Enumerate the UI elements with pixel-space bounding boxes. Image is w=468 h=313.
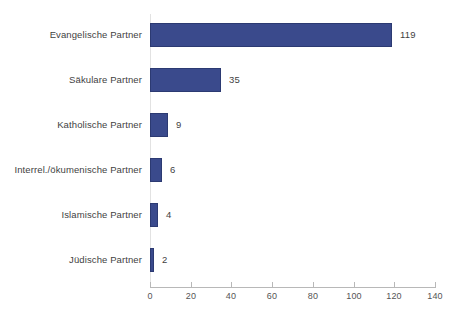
bar-chart: 0 20 40 60 80 100 120 140 Evangelische P… <box>0 0 468 313</box>
category-label: Jüdische Partner <box>69 254 142 265</box>
bar <box>150 68 221 92</box>
bar <box>150 158 162 182</box>
x-tick-label: 100 <box>339 291 369 301</box>
x-tick-mark <box>150 282 151 287</box>
bar-value-label: 35 <box>229 74 240 85</box>
category-label: Evangelische Partner <box>50 29 142 40</box>
x-tick-label: 120 <box>379 291 409 301</box>
bar-value-label: 2 <box>162 254 167 265</box>
bar-value-label: 6 <box>170 164 175 175</box>
x-tick-mark <box>394 282 395 287</box>
bar <box>150 203 158 227</box>
x-axis-line <box>150 287 436 288</box>
bar <box>150 248 154 272</box>
bar <box>150 113 168 137</box>
x-tick-label: 20 <box>176 291 206 301</box>
category-label: Interrel./ökumenische Partner <box>14 164 142 175</box>
bar-value-label: 4 <box>166 209 171 220</box>
category-label: Katholische Partner <box>57 119 142 130</box>
x-tick-label: 60 <box>257 291 287 301</box>
bar-value-label: 119 <box>400 29 416 40</box>
y-axis-baseline <box>150 14 151 287</box>
category-label: Islamische Partner <box>62 209 142 220</box>
x-tick-mark <box>231 282 232 287</box>
x-tick-label: 80 <box>298 291 328 301</box>
plot-area: 0 20 40 60 80 100 120 140 Evangelische P… <box>0 0 468 313</box>
x-tick-label: 40 <box>216 291 246 301</box>
x-tick-label: 140 <box>420 291 450 301</box>
x-tick-mark <box>191 282 192 287</box>
x-tick-mark <box>435 282 436 287</box>
bar <box>150 23 392 47</box>
bar-value-label: 9 <box>176 119 181 130</box>
x-tick-mark <box>354 282 355 287</box>
x-tick-mark <box>313 282 314 287</box>
category-label: Säkulare Partner <box>69 74 142 85</box>
x-tick-label: 0 <box>135 291 165 301</box>
x-tick-mark <box>272 282 273 287</box>
